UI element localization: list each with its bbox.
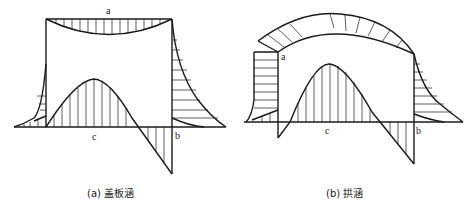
figure-a-slab-culvert [14, 19, 226, 174]
caption-b: (b) 拱涵 [326, 185, 363, 200]
label-b-a: a [281, 51, 286, 62]
figure-b-arch-culvert [244, 14, 463, 164]
label-a-top: a [106, 5, 111, 16]
label-a-b: b [175, 130, 180, 141]
label-a-c: c [92, 131, 97, 142]
label-b-b: b [416, 125, 421, 136]
diagram-canvas: a c b [0, 0, 473, 207]
caption-a: (a) 盖板涵 [87, 185, 134, 200]
label-b-c: c [325, 125, 330, 136]
